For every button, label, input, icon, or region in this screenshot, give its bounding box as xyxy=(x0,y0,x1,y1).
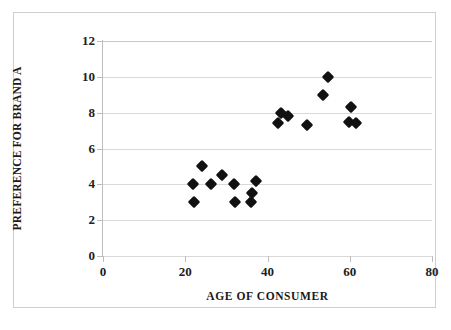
y-tick-mark-10 xyxy=(97,77,103,78)
x-tick-mark-80 xyxy=(432,256,433,262)
y-tick-label-2: 2 xyxy=(67,213,95,226)
y-tick-mark-6 xyxy=(97,149,103,150)
chart-frame: PREFERENCE FOR BRAND A 024681012 0204060… xyxy=(13,12,436,308)
y-axis-title: PREFERENCE FOR BRAND A xyxy=(8,41,26,256)
x-tick-mark-0 xyxy=(103,256,104,262)
gridline-y-4 xyxy=(103,184,432,185)
y-tick-label-10: 10 xyxy=(67,70,95,83)
x-axis-title: AGE OF CONSUMER xyxy=(103,290,432,302)
y-tick-mark-8 xyxy=(97,113,103,114)
x-tick-label-0: 0 xyxy=(83,265,123,278)
x-tick-label-80: 80 xyxy=(412,265,451,278)
y-tick-mark-4 xyxy=(97,184,103,185)
x-tick-mark-60 xyxy=(350,256,351,262)
y-tick-label-4: 4 xyxy=(67,177,95,190)
y-tick-mark-2 xyxy=(97,220,103,221)
y-tick-label-6: 6 xyxy=(67,142,95,155)
gridline-y-12 xyxy=(103,41,432,42)
x-tick-label-40: 40 xyxy=(248,265,288,278)
y-tick-mark-12 xyxy=(97,41,103,42)
x-tick-mark-20 xyxy=(185,256,186,262)
x-tick-label-20: 20 xyxy=(165,265,205,278)
y-tick-label-8: 8 xyxy=(67,106,95,119)
gridline-y-8 xyxy=(103,113,432,114)
gridline-y-6 xyxy=(103,149,432,150)
y-tick-label-0: 0 xyxy=(67,249,95,262)
x-tick-label-60: 60 xyxy=(330,265,370,278)
gridline-y-10 xyxy=(103,77,432,78)
y-tick-label-12: 12 xyxy=(67,34,95,47)
gridline-y-2 xyxy=(103,220,432,221)
scatter-plot-figure: PREFERENCE FOR BRAND A 024681012 0204060… xyxy=(0,0,451,330)
x-tick-mark-40 xyxy=(268,256,269,262)
